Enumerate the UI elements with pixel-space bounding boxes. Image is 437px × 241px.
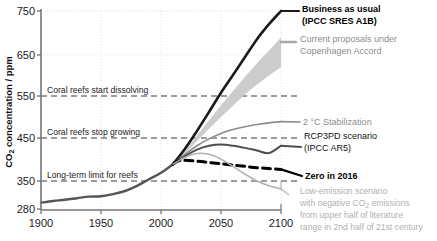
series-low-emission-negative-co2 (173, 153, 281, 189)
label-copenhagen-line2: Copenhagen Accord (300, 46, 382, 56)
label-rcp3pd-line1: RCP3PD scenario (304, 131, 377, 141)
annotation-long-term-limit-for-reefs: Long-term limit for reefs (47, 170, 138, 180)
annotation-coral-reefs-stop-growing: Coral reefs stop growing (47, 127, 140, 137)
label-low-emission-line3: from upper half of literature (300, 210, 403, 220)
x-tick-label-2050: 2050 (209, 217, 233, 229)
leader-zero-in-2016 (281, 169, 302, 176)
y-tick-label-280: 280 (17, 203, 35, 215)
label-low-emission-line4: range in 2nd half of 21st century (300, 222, 423, 232)
label-zero-in-2016: Zero in 2016 (305, 171, 358, 181)
label-low-emission-line1: Low-emission scenario (300, 186, 388, 196)
label-rcp3pd-line2: (IPCC AR5) (304, 143, 351, 153)
label-copenhagen-line1: Current proposals under (300, 34, 397, 44)
x-tick-label-2100: 2100 (269, 217, 293, 229)
x-tick-label-1900: 1900 (29, 217, 53, 229)
co2-concentration-chart: 75065055045035028019001950200020502100CO… (0, 0, 437, 241)
label-low-emission-line2: with negative CO2 emissions (299, 198, 410, 209)
y-tick-label-450: 450 (17, 132, 35, 144)
annotation-coral-reefs-start-dissolving: Coral reefs start dissolving (47, 85, 148, 95)
x-tick-label-1950: 1950 (89, 217, 113, 229)
x-tick-label-2000: 2000 (149, 217, 173, 229)
label-two-degree-stabilization: 2 °C Stabilization (303, 117, 372, 127)
y-tick-label-550: 550 (17, 90, 35, 102)
leader-low-emission-scenario (281, 181, 289, 195)
series-zero-in-2016 (173, 160, 281, 169)
y-tick-label-650: 650 (17, 49, 35, 61)
series-business-as-usual (173, 11, 281, 164)
leader-rcp3pd (281, 146, 301, 147)
y-axis-title: CO2 concentration / ppm (3, 56, 15, 168)
label-business-as-usual-line2: (IPCC SRES A1B) (302, 16, 377, 26)
chart-canvas: 75065055045035028019001950200020502100CO… (0, 0, 437, 241)
y-tick-label-350: 350 (17, 175, 35, 187)
svg-text:CO2 concentration / ppm: CO2 concentration / ppm (3, 56, 15, 168)
y-tick-label-750: 750 (17, 5, 35, 17)
label-business-as-usual-line1: Business as usual (302, 4, 381, 14)
